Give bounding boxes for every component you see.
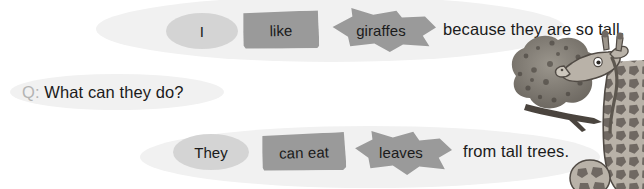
- question-marker: Q:: [22, 83, 40, 101]
- giraffe-neck: [603, 60, 644, 189]
- sentence-tail-answer-1: because they are so tall.: [443, 20, 624, 39]
- question-text: What can they do?: [44, 83, 183, 101]
- word-card-they[interactable]: They: [173, 134, 249, 170]
- word-card-like[interactable]: like: [243, 10, 320, 50]
- word-card-can-eat[interactable]: can eat: [262, 132, 347, 172]
- worksheet-page: I like giraffes because they are so tall…: [0, 0, 644, 189]
- word-card-i[interactable]: I: [166, 13, 238, 49]
- question-line: Q: What can they do?: [22, 83, 184, 102]
- tree-branch: [524, 104, 602, 124]
- sentence-tail-answer-2: from tall trees.: [463, 142, 569, 161]
